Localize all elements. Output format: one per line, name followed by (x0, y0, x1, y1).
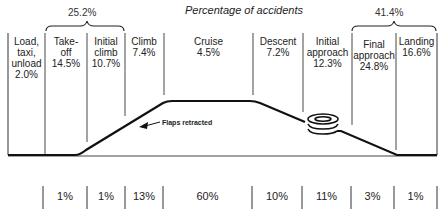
phase-load-taxi-unload: Load, taxi, unload 2.0% (8, 36, 45, 80)
phase-descent: Descent 7.2% (253, 36, 303, 58)
flight-profile-graphic (0, 0, 445, 220)
bracket-approach-landing (352, 21, 436, 31)
flight-path (8, 101, 305, 155)
bracket-takeoff-climb (46, 21, 124, 31)
flight-path-final (337, 131, 437, 155)
phase-takeoff: Take- off 14.5% (45, 36, 87, 69)
chart-title: Percentage of accidents (185, 4, 303, 16)
flight-phase-diagram: Percentage of accidents 25.2% 41.4% Load… (0, 0, 445, 220)
phase-climb: Climb 7.4% (125, 36, 163, 58)
flight-time-takeoff: 1% (43, 190, 87, 202)
phase-final-approach: Final approach 24.8% (352, 39, 396, 72)
holding-pattern (308, 114, 338, 134)
phase-landing: Landing 16.6% (396, 36, 437, 58)
flaps-retracted-label: Flaps retracted (162, 119, 212, 126)
phase-initial-climb: Initial climb 10.7% (87, 36, 125, 69)
flight-time-initial-climb: 1% (87, 190, 125, 202)
group-label-takeoff-climb: 25.2% (68, 7, 96, 18)
phase-cruise: Cruise 4.5% (164, 36, 253, 58)
flight-time-initial-approach: 11% (302, 190, 351, 202)
flight-time-cruise: 60% (163, 190, 252, 202)
flight-time-descent: 10% (252, 190, 302, 202)
flight-time-landing: 1% (394, 190, 437, 202)
group-label-approach-landing: 41.4% (375, 7, 403, 18)
flight-time-climb: 13% (125, 190, 163, 202)
flight-time-final-approach: 3% (351, 190, 394, 202)
phase-initial-approach: Initial approach 12.3% (303, 36, 352, 69)
